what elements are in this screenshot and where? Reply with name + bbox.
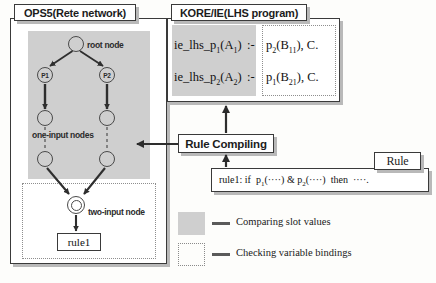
rete-one-input-node-left-2 bbox=[37, 151, 53, 167]
kore-clause-2-head: ie_lhs_p2(A2) bbox=[174, 70, 242, 87]
kore-title: KORE/IE(LHS program) bbox=[171, 4, 307, 21]
rule-compiling-box[interactable]: Rule Compiling bbox=[178, 134, 274, 153]
kore-clause-2-body: p1(B21), C. bbox=[266, 70, 319, 87]
rule-statement-if: if bbox=[245, 174, 251, 185]
rule-statement-amp: & bbox=[287, 174, 295, 185]
legend-label-comparing: Comparing slot values bbox=[236, 216, 331, 227]
legend-dash-comparing bbox=[212, 222, 230, 225]
rete-two-input-node-inner bbox=[71, 200, 82, 211]
two-input-node-label: two-input node bbox=[88, 207, 145, 217]
one-input-nodes-label: one-input nodes bbox=[32, 130, 94, 140]
rete-one-input-node-right-2 bbox=[99, 151, 115, 167]
rete-alpha-node-p2: P2 bbox=[99, 67, 115, 83]
rete-root-node bbox=[68, 36, 84, 52]
rule-statement-then: then bbox=[331, 174, 348, 185]
rule-statement-action: ····. bbox=[353, 174, 369, 185]
kore-clause-1-body: p2(B11), C. bbox=[266, 38, 318, 55]
rete-alpha-node-p1: P1 bbox=[37, 67, 53, 83]
rule-statement-name: rule1: bbox=[219, 174, 242, 185]
rule-statement: rule1: if p1(····) & p2(····) then ····. bbox=[219, 174, 369, 188]
legend-swatch-comparing bbox=[178, 212, 205, 235]
rete-alpha-node-p2-label: P2 bbox=[100, 72, 114, 79]
kore-clause-1-head: ie_lhs_p1(A1) bbox=[174, 38, 242, 55]
terminal-rule1-box: rule1 bbox=[57, 233, 101, 251]
legend-label-checking: Checking variable bindings bbox=[236, 247, 351, 258]
rete-one-input-node-right bbox=[99, 110, 115, 126]
rule-statement-cond1: p1(····) bbox=[256, 174, 284, 185]
legend-swatch-checking bbox=[178, 243, 205, 266]
rule-tag: Rule bbox=[374, 152, 421, 170]
ops5-title: OPS5(Rete network) bbox=[14, 4, 136, 21]
root-node-label: root node bbox=[87, 40, 124, 50]
rete-one-input-node-left bbox=[37, 110, 53, 126]
legend-dash-checking bbox=[212, 253, 230, 256]
rule-statement-cond2: p2(····) bbox=[297, 174, 325, 185]
kore-clause-1-neck: :- bbox=[247, 38, 255, 53]
kore-clause-2-neck: :- bbox=[247, 70, 255, 85]
rete-alpha-node-p1-label: P1 bbox=[38, 72, 52, 79]
